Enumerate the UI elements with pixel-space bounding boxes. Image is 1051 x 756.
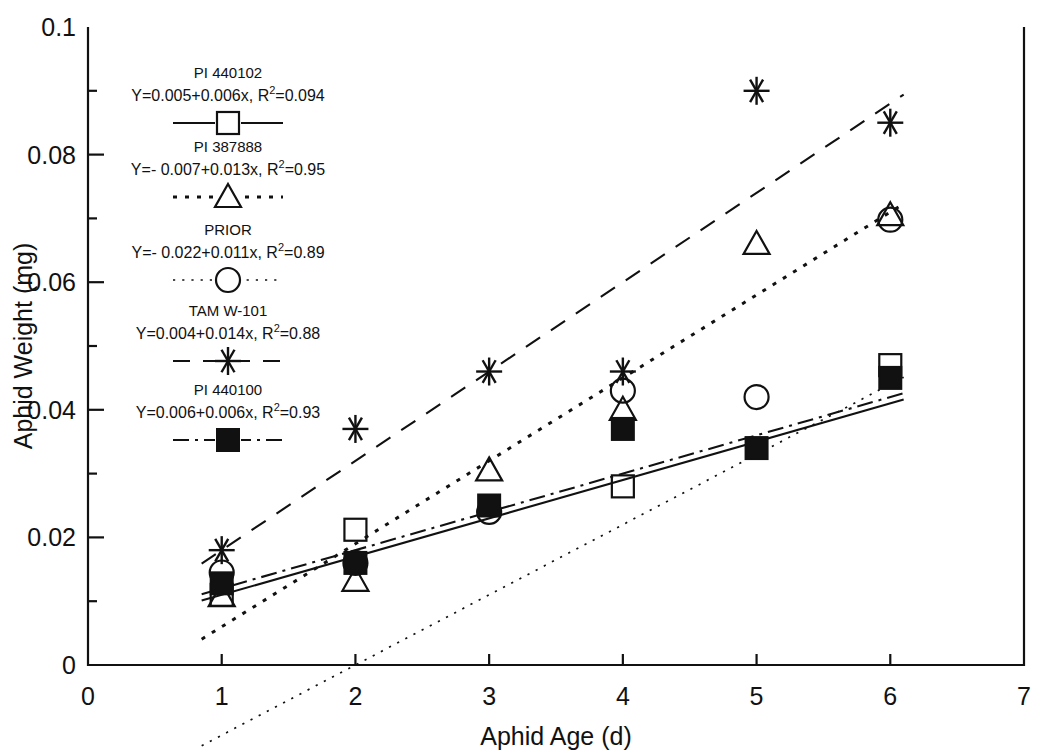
y-tick-label: 0.08 [27, 141, 76, 169]
x-tick-label: 1 [215, 682, 229, 710]
x-tick-label: 3 [482, 682, 496, 710]
data-point-s3-x2 [342, 415, 368, 443]
legend-entry-2: PRIORY=- 0.022+0.011x, R2=0.89 [131, 221, 324, 293]
aphid-weight-scatter-chart: 0123456700.020.040.060.080.1 PI 440102Y=… [0, 0, 1051, 756]
data-point-s4-x3 [478, 495, 500, 517]
legend-series-name: PI 440102 [194, 64, 262, 81]
x-tick-label: 2 [348, 682, 362, 710]
x-tick-label: 4 [616, 682, 630, 710]
legend-equation: Y=0.005+0.006x, R2=0.094 [131, 84, 325, 104]
legend-equation: Y=0.006+0.006x, R2=0.93 [136, 401, 321, 421]
data-point-s1-x5 [744, 231, 770, 254]
legend-series-name: TAM W-101 [189, 302, 268, 319]
axis-titles-layer: Aphid Age (d)Aphid Weight (mg) [9, 243, 632, 750]
data-point-s4-x6 [879, 367, 901, 389]
legend-series-name: PI 440100 [194, 381, 262, 398]
legend-equation: Y=- 0.007+0.013x, R2=0.95 [131, 158, 325, 178]
legend-equation: Y=0.004+0.014x, R2=0.88 [136, 322, 321, 342]
data-point-s4-x4 [612, 418, 634, 440]
data-point-s3-x5 [744, 77, 770, 105]
regression-line-0 [202, 400, 904, 601]
data-point-s3-x1 [209, 536, 235, 564]
y-tick-label: 0 [62, 651, 76, 679]
data-point-s4-x2 [344, 552, 366, 574]
legend-equation: Y=- 0.022+0.011x, R2=0.89 [131, 241, 324, 261]
y-tick-label: 0.02 [27, 523, 76, 551]
legend-series-name: PI 387888 [194, 138, 262, 155]
data-point-s3-x6 [877, 109, 903, 137]
legend-entry-0: PI 440102Y=0.005+0.006x, R2=0.094 [131, 64, 325, 136]
data-point-s0-x2 [344, 519, 366, 541]
y-tick-label: 0.1 [41, 13, 76, 41]
chart-figure: 0123456700.020.040.060.080.1 PI 440102Y=… [0, 0, 1051, 756]
data-point-s1-x4 [610, 397, 636, 420]
regression-line-1 [202, 204, 904, 639]
data-point-s3-x3 [476, 358, 502, 386]
data-point-s2-x5 [745, 385, 769, 409]
regression-line-2 [202, 377, 904, 745]
x-axis-title: Aphid Age (d) [480, 722, 632, 750]
legend-entry-3: TAM W-101Y=0.004+0.014x, R2=0.88 [136, 302, 321, 375]
data-point-s1-x6 [877, 202, 903, 225]
legend-entry-4: PI 440100Y=0.006+0.006x, R2=0.93 [136, 381, 321, 453]
legend-marker-sample [217, 429, 239, 451]
x-tick-label: 6 [883, 682, 897, 710]
data-point-s4-x1 [211, 572, 233, 594]
legend-entry-1: PI 387888Y=- 0.007+0.013x, R2=0.95 [131, 138, 325, 210]
x-tick-label: 5 [750, 682, 764, 710]
x-tick-label: 7 [1017, 682, 1031, 710]
y-axis-title: Aphid Weight (mg) [9, 243, 37, 450]
legend-marker-backdrop [215, 110, 241, 136]
data-point-s2-x6 [878, 208, 902, 232]
x-tick-label: 0 [81, 682, 95, 710]
chart-legend: PI 440102Y=0.005+0.006x, R2=0.094PI 3878… [131, 64, 325, 453]
data-point-s4-x5 [746, 437, 768, 459]
legend-series-name: PRIOR [204, 221, 252, 238]
